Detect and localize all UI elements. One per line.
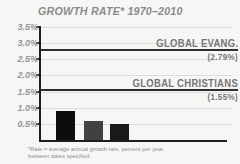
reference-value-label: (1.55%)	[208, 92, 238, 102]
reference-line	[41, 89, 238, 91]
y-axis-tick-label: 2.5%	[6, 53, 38, 64]
plot-area: 3.5%3.0%2.5%2.0%1.5%1.0%0.5%GLOBAL EVANG…	[0, 0, 240, 164]
growth-rate-chart: GROWTH RATE* 1970–2010 3.5%3.0%2.5%2.0%1…	[0, 0, 240, 164]
bar	[110, 124, 129, 140]
reference-value-label: (2.79%)	[208, 52, 238, 62]
gridline	[41, 59, 232, 60]
reference-line	[41, 49, 238, 51]
y-axis-tick-label: 1.0%	[6, 102, 38, 113]
y-axis-tick-label: 2.0%	[6, 69, 38, 80]
y-axis-tick-label: 3.0%	[6, 37, 38, 48]
gridline	[41, 108, 232, 109]
gridline	[41, 27, 232, 28]
footnote-line-2: between dates specified.	[28, 153, 91, 159]
reference-label: GLOBAL EVANG.	[156, 38, 238, 49]
gridline	[41, 92, 232, 93]
bar	[56, 111, 75, 140]
y-axis-tick-label: 3.5%	[6, 21, 38, 32]
bar	[84, 121, 103, 140]
footnote-line-1: *Rate = average annual growth rate, perc…	[28, 146, 165, 152]
y-axis-tick-label: 1.5%	[6, 86, 38, 97]
x-axis-line	[39, 140, 227, 142]
reference-label: GLOBAL CHRISTIANS	[133, 78, 238, 89]
y-axis-tick-label: 0.5%	[6, 118, 38, 129]
y-axis-line	[39, 27, 41, 142]
gridline	[41, 75, 232, 76]
